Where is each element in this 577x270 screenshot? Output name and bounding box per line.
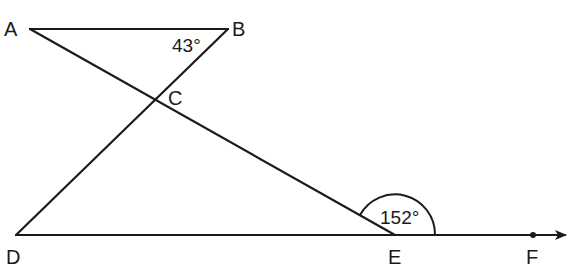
geometry-diagram: A B C D E F 43° 152° [0, 0, 577, 270]
angle-label-b: 43° [172, 35, 201, 56]
point-f-dot [530, 232, 536, 238]
label-f: F [526, 246, 538, 268]
label-e: E [388, 246, 401, 268]
angle-label-e: 152° [380, 207, 419, 228]
label-b: B [232, 18, 245, 40]
segment-ae [30, 29, 395, 235]
label-c: C [168, 87, 182, 109]
label-a: A [4, 18, 18, 40]
segment-bd [16, 29, 228, 235]
label-d: D [6, 246, 20, 268]
